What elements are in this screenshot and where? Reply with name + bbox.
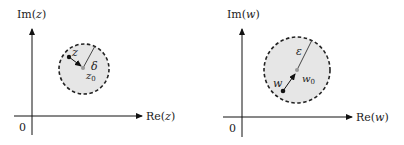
diagram-canvas: Im(z) Re(z) 0 z δ z0 Im(w) Re(w) 0 ε	[0, 0, 404, 145]
z0-point	[81, 66, 85, 70]
left-panel: Im(z) Re(z) 0 z δ z0	[14, 8, 175, 135]
left-origin-label: 0	[19, 121, 26, 134]
right-origin-label: 0	[229, 122, 236, 135]
left-y-axis-label: Im(z)	[17, 8, 46, 21]
z-point-label: z	[71, 46, 78, 59]
epsilon-label: ε	[296, 45, 302, 58]
left-x-axis-label: Re(z)	[146, 110, 175, 123]
right-x-axis-label: Re(w)	[356, 111, 389, 124]
right-panel: Im(w) Re(w) 0 ε w w0	[223, 8, 389, 137]
z-point	[67, 55, 71, 59]
delta-label: δ	[91, 60, 98, 73]
right-y-axis-label: Im(w)	[227, 8, 260, 21]
w0-point	[295, 68, 299, 72]
w-point-label: w	[273, 77, 283, 90]
